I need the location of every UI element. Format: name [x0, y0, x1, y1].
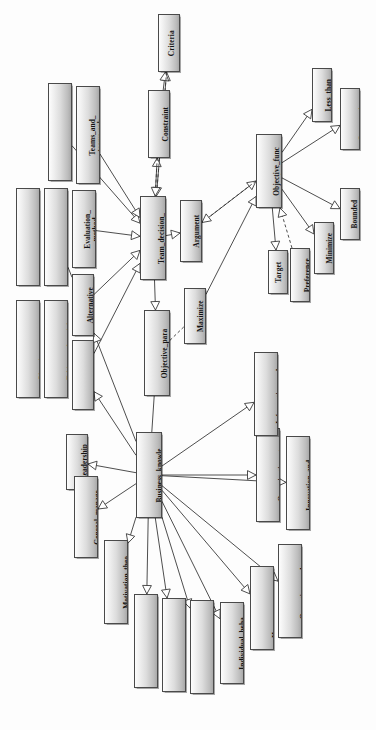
node-label: Business_knowle dge — [156, 448, 162, 502]
edge-business-to-information — [162, 402, 254, 466]
edge-team_decision-to-argument — [166, 230, 180, 239]
arrowhead-hollow-triangle-icon — [304, 109, 313, 119]
node-label-wrap: Communication_ and_collaboration... — [17, 189, 40, 285]
node-label-wrap: Maximize — [185, 289, 206, 343]
node-teams[interactable]: Teams_and_ teamwork+ — [76, 86, 100, 184]
node-less_than[interactable]: Less_than — [312, 68, 332, 122]
node-minimize[interactable]: Minimize — [314, 222, 334, 274]
edge-related_models-to-team_decision — [94, 263, 140, 353]
node-label-wrap: General_manage ment — [75, 477, 98, 557]
node-strategy[interactable]: Strategy_and_st rategic_managem...+ — [48, 83, 72, 181]
edge-objective_func-to-target — [271, 208, 280, 250]
node-global_dim[interactable]: Global_dimensions_ of_management...+ — [162, 598, 186, 692]
arrowhead-hollow-triangle-icon — [162, 589, 171, 598]
arrowhead-hollow-triangle-icon — [241, 585, 250, 594]
node-label-wrap: Innovation_and_ organizational_... — [287, 437, 310, 529]
arrowhead-hollow-triangle-icon — [131, 231, 140, 240]
node-operations[interactable]: Operations_and_ services_manage...+ — [278, 544, 302, 638]
node-label: Target — [275, 262, 283, 283]
node-related_models[interactable]: Related_models+ — [72, 340, 94, 410]
arrowhead-hollow-triangle-icon — [143, 585, 152, 594]
node-label-wrap: Planning_process_ and_technique... — [17, 301, 40, 397]
node-label: Preference — [304, 258, 310, 292]
node-mgmt_learning[interactable]: Management_learning_ past_&_pre...+ — [134, 594, 158, 688]
node-maximize[interactable]: Maximize+ — [184, 288, 206, 344]
node-label-wrap: Strategy_and_st rategic_managem... — [49, 84, 72, 180]
arrowhead-hollow-triangle-icon — [98, 501, 108, 509]
edge-objective_func-to-minimize — [282, 189, 314, 234]
node-team_decision[interactable]: Team_decision_ making — [140, 196, 166, 280]
node-objective_param[interactable]: Objective_para meter+ — [144, 310, 170, 396]
arrowhead-hollow-triangle-icon — [131, 214, 140, 223]
node-label: Bounded — [351, 200, 359, 229]
edge-team_decision-to-constraint — [152, 158, 161, 196]
edge-business-to-mgmt_learning — [143, 518, 152, 594]
node-general_mgmt[interactable]: General_manage ment+ — [74, 476, 98, 558]
edge-evaluation-to-team_decision — [96, 231, 140, 240]
node-label: Greater_than — [359, 97, 360, 141]
node-constraint[interactable]: Constraint+ — [148, 90, 170, 158]
edge-alternative-to-team_decision — [94, 250, 140, 294]
node-target[interactable]: Target — [268, 250, 288, 294]
node-label: Innovation_and_ organizational_... — [306, 455, 310, 511]
node-label-wrap: Individual_beha vior — [221, 603, 244, 683]
arrowhead-hollow-triangle-icon — [94, 392, 102, 402]
node-label: Operations_and_ services_manage... — [300, 561, 302, 620]
arrowhead-hollow-triangle-icon — [278, 208, 287, 217]
node-organization_st[interactable]: Organization_st ructures_and_de...+ — [256, 428, 280, 522]
node-environmental[interactable]: Environmental_and_ organization...+ — [190, 600, 214, 694]
node-label-wrap: Greater_than — [341, 89, 360, 149]
node-ethics[interactable]: Ethics_and_social_ responsibil...+ — [44, 300, 68, 398]
node-label-wrap: Constraint — [149, 91, 170, 157]
node-individual[interactable]: Individual_beha vior+ — [220, 602, 244, 684]
node-greater_than[interactable]: Greater_than — [340, 88, 360, 150]
node-innovation[interactable]: Innovation_and_ organizational_...+ — [286, 436, 310, 530]
node-label-wrap: Objective_para meter — [145, 311, 170, 395]
node-label: Minimize — [326, 233, 334, 263]
arrowhead-hollow-triangle-icon — [131, 250, 140, 259]
arrowhead-hollow-triangle-icon — [330, 201, 340, 209]
node-label: Individual_beha vior — [239, 617, 244, 670]
node-label: Organization_st ructures_and_de... — [278, 445, 280, 505]
diagram-canvas[interactable]: Criteria+Constraint+Strategy_and_st rate… — [0, 0, 376, 730]
arrowhead-hollow-triangle-icon — [306, 225, 315, 235]
node-label-wrap: Operations_and_ services_manage... — [279, 545, 302, 637]
node-control[interactable]: Control_processes_ and_systems+ — [44, 188, 68, 286]
arrowhead-hollow-triangle-icon — [88, 461, 97, 470]
node-communication[interactable]: Communication_ and_collaboration...+ — [16, 188, 40, 286]
node-argument[interactable]: Argument+ — [180, 200, 202, 262]
node-label: Alternative — [87, 287, 94, 323]
arrowhead-hollow-triangle-icon — [271, 241, 280, 250]
edge-business-to-environmental — [162, 517, 192, 608]
node-label: Information_and_ decision_makin... — [276, 365, 278, 424]
node-evaluation[interactable]: Evaluation_ method+ — [72, 190, 96, 268]
node-label: Motivation_theo ry_and_practice — [123, 556, 128, 609]
node-bounded[interactable]: Bounded — [340, 188, 360, 240]
arrowhead-hollow-triangle-icon — [132, 263, 140, 273]
node-alternative[interactable]: Alternative+ — [72, 274, 94, 336]
arrowhead-hollow-triangle-icon — [153, 187, 162, 196]
node-preference[interactable]: Preference+ — [290, 248, 310, 302]
node-label-wrap: Human_resource_ management — [251, 567, 274, 649]
arrowhead-hollow-triangle-icon — [245, 402, 255, 411]
arrowhead-hollow-triangle-icon — [160, 72, 169, 81]
node-criteria[interactable]: Criteria+ — [158, 14, 180, 72]
edge-constraint-to-criteria — [160, 72, 169, 90]
node-label-wrap: Less_than — [313, 69, 332, 121]
edge-constraint-to-team_decision — [151, 158, 160, 196]
node-human_resource[interactable]: Human_resource_ management+ — [250, 566, 274, 650]
node-label: Leadership — [81, 444, 88, 480]
edge-objective_param-to-business — [152, 396, 154, 432]
node-planning[interactable]: Planning_process_ and_technique...+ — [16, 300, 40, 398]
arrowhead-hollow-triangle-icon — [331, 125, 341, 133]
node-information[interactable]: Information_and_ decision_makin...+ — [254, 352, 278, 436]
edge-objective_func-to-bounded — [282, 178, 340, 209]
node-motivation[interactable]: Motivation_theo ry_and_practice+ — [104, 540, 128, 624]
node-label: Planning_process_ and_technique... — [39, 319, 40, 379]
node-business[interactable]: Business_knowle dge — [136, 432, 162, 518]
node-label-wrap: Control_processes_ and_systems — [45, 189, 68, 285]
edge-business-to-human_resource — [162, 490, 250, 594]
node-label: Teams_and_ teamwork — [89, 115, 100, 155]
node-label-wrap: Evaluation_ method — [73, 191, 96, 267]
node-objective_func[interactable]: Objective_func tion — [256, 134, 282, 208]
